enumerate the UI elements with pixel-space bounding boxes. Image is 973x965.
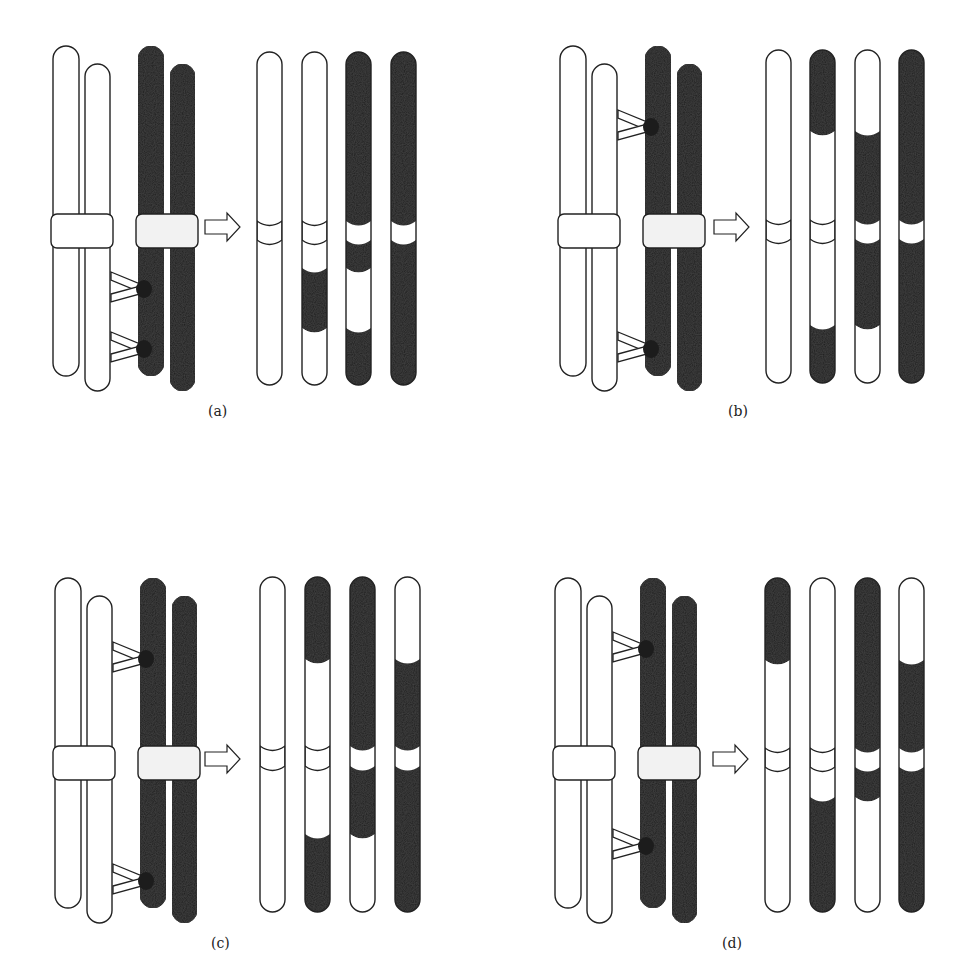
centromere — [53, 746, 115, 780]
crossover-figure — [0, 0, 973, 965]
result-chromatid — [257, 52, 282, 385]
result-chromatids — [765, 578, 924, 912]
chiasma-node — [136, 340, 152, 358]
dark-homolog — [643, 46, 705, 391]
chiasma-node — [138, 650, 154, 668]
arrow-icon — [205, 745, 240, 773]
result-chromatid — [810, 50, 835, 383]
panel-a — [51, 46, 416, 391]
centromere — [638, 746, 700, 780]
white-homolog — [51, 46, 113, 391]
centromere — [136, 214, 198, 248]
tetrad — [558, 46, 705, 391]
tetrad — [51, 46, 198, 391]
panel-label-b: (b) — [728, 403, 748, 419]
chiasma-node — [136, 280, 152, 298]
chiasma-node — [138, 872, 154, 890]
panel-label-a: (a) — [208, 403, 227, 419]
result-chromatid — [260, 577, 285, 912]
chiasma-node — [643, 118, 659, 136]
result-chromatid — [395, 577, 420, 912]
result-chromatids — [257, 52, 416, 385]
tetrad — [53, 578, 200, 923]
dark-homolog — [138, 578, 200, 923]
centromere — [643, 214, 705, 248]
result-chromatid — [810, 578, 835, 912]
white-homolog — [558, 46, 620, 391]
arrow-icon — [713, 745, 748, 773]
panel-c — [53, 577, 420, 923]
result-chromatid — [346, 52, 371, 385]
panel-label-d: (d) — [722, 935, 742, 951]
centromere — [553, 746, 615, 780]
white-homolog — [53, 578, 115, 923]
result-chromatid — [855, 50, 880, 383]
white-homolog — [553, 578, 615, 923]
result-chromatid — [899, 50, 924, 383]
panel-d — [553, 578, 924, 923]
centromere — [51, 214, 113, 248]
panel-b — [558, 46, 924, 391]
dark-homolog — [136, 46, 198, 391]
result-chromatid — [899, 578, 924, 912]
result-chromatid — [855, 578, 880, 912]
result-chromatids — [260, 577, 420, 912]
chiasma-node — [643, 340, 659, 358]
arrow-icon — [714, 213, 749, 241]
chiasma-node — [638, 837, 654, 855]
panel-label-c: (c) — [211, 935, 230, 951]
centromere — [558, 214, 620, 248]
result-chromatid — [765, 578, 790, 912]
centromere — [138, 746, 200, 780]
result-chromatids — [766, 50, 924, 383]
chiasma-node — [638, 640, 654, 658]
result-chromatid — [305, 577, 330, 912]
result-chromatid — [302, 52, 327, 385]
result-chromatid — [766, 50, 791, 383]
dark-homolog — [638, 578, 700, 923]
result-chromatid — [391, 52, 416, 385]
result-chromatid — [350, 577, 375, 912]
tetrad — [553, 578, 700, 923]
arrow-icon — [205, 213, 240, 241]
